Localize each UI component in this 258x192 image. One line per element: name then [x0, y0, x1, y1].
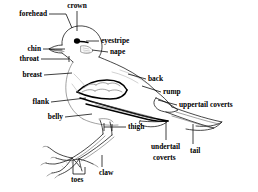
toe-8-hind — [79, 159, 93, 164]
leader-nape — [92, 50, 108, 52]
label-coverts: coverts — [153, 153, 176, 162]
wing-primary-line-1 — [92, 102, 152, 117]
leader-forehead — [49, 14, 72, 28]
label-throat: throat — [19, 54, 39, 63]
toe-1 — [48, 147, 72, 158]
label-nape: nape — [110, 47, 126, 56]
leader-flank — [51, 98, 86, 102]
wing-primary-line-2 — [96, 105, 154, 119]
label-eyestripe: eyestripe — [101, 36, 130, 45]
breast-belly-contour — [66, 62, 83, 119]
label-undertail: undertail — [151, 142, 180, 151]
thigh — [100, 120, 112, 135]
label-chin: chin — [27, 44, 41, 53]
label-forehead: forehead — [19, 9, 48, 18]
leader-back — [128, 74, 146, 79]
eyestripe-mark — [80, 42, 88, 43]
leader-thigh — [104, 123, 126, 131]
label-crown: crown — [67, 1, 87, 10]
toe-3-claw — [47, 173, 52, 176]
toe-1-claw — [43, 146, 48, 147]
label-thigh: thigh — [128, 122, 144, 131]
leader-toes — [73, 160, 85, 174]
label-belly: belly — [48, 112, 63, 121]
label-flank: flank — [33, 97, 50, 106]
foot-near — [41, 146, 80, 176]
leader-belly — [65, 114, 92, 117]
bird-diagram-canvas: forehead crown eyestripe nape chin throa… — [0, 0, 258, 192]
label-uppertail-coverts: uppertail coverts — [179, 100, 233, 109]
label-breast: breast — [22, 70, 42, 79]
leader-throat — [41, 56, 69, 62]
label-claw: claw — [99, 168, 114, 177]
claw-marker — [93, 164, 98, 167]
eye — [74, 38, 80, 43]
back-feather-hint-2 — [120, 70, 148, 84]
toe-5-claw — [51, 157, 56, 158]
leader-uppertail-coverts — [158, 100, 177, 105]
toe-6-claw — [55, 175, 59, 178]
toe-6 — [59, 159, 79, 175]
tarsus-far — [79, 135, 112, 159]
wing-trailing-edge — [77, 90, 127, 99]
auricular-feather-lines — [83, 48, 90, 53]
bird-anatomy-figure: forehead crown eyestripe nape chin throa… — [0, 0, 258, 192]
label-tail: tail — [190, 146, 200, 155]
toe-2-claw — [41, 163, 46, 165]
thigh-outline — [99, 119, 113, 122]
wing-leading-edge — [77, 80, 127, 92]
label-back: back — [148, 74, 164, 83]
chin-throat-contour — [62, 53, 73, 62]
wing-primaries-upper — [80, 98, 168, 121]
label-rump: rump — [163, 87, 181, 96]
label-toes: toes — [71, 175, 83, 184]
breast-feather-hint — [72, 74, 85, 95]
wing-covert-scallop-2 — [82, 89, 122, 92]
